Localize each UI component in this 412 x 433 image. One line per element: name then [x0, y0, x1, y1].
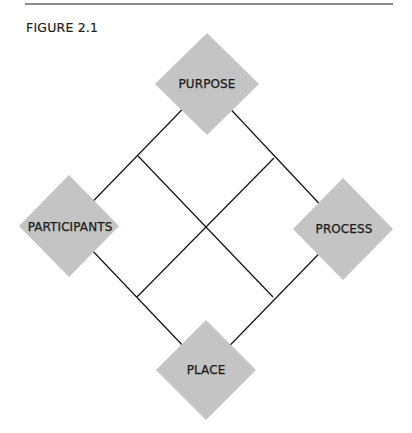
node-label-purpose: PURPOSE: [179, 77, 236, 91]
node-label-process: PROCESS: [316, 222, 373, 236]
node-label-participants: PARTICIPANTS: [28, 220, 113, 234]
node-label-place: PLACE: [187, 363, 226, 377]
